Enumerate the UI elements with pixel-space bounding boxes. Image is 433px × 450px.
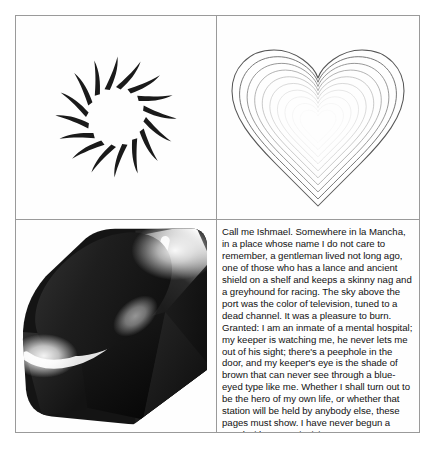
ruby-gem-icon	[16, 220, 216, 432]
panel-concentric-hearts	[217, 16, 419, 220]
panel-ruby-gem	[16, 220, 217, 432]
figure-frame: Call me Ishmael. Somewhere in la Mancha,…	[15, 15, 420, 433]
panel-text-passage: Call me Ishmael. Somewhere in la Mancha,…	[217, 220, 419, 432]
gem-wrap	[16, 220, 216, 432]
spiral-sun-icon	[16, 16, 216, 219]
panel-grid: Call me Ishmael. Somewhere in la Mancha,…	[16, 16, 419, 432]
panel-spiral-sun	[16, 16, 217, 220]
concentric-hearts-icon	[217, 16, 419, 219]
text-passage-body: Call me Ishmael. Somewhere in la Mancha,…	[222, 226, 415, 432]
text-passage-block: Call me Ishmael. Somewhere in la Mancha,…	[222, 226, 415, 430]
